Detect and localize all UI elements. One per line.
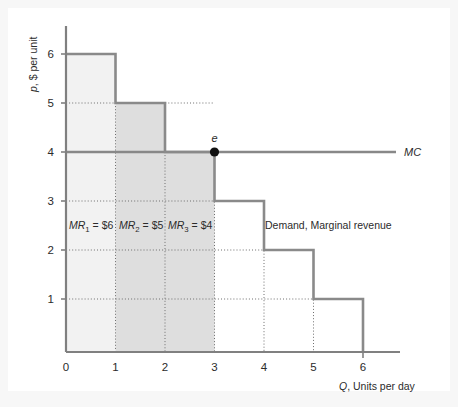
x-tick-label-2: 2 (162, 361, 168, 373)
y-tick-label-4: 4 (48, 146, 55, 158)
mr2-prefix: MR (119, 219, 136, 231)
shaded-bars-group (66, 54, 215, 352)
x-tick-label-6: 6 (360, 361, 366, 373)
figure-page: e MC Demand, Marginal revenue MR1 = $6 M… (0, 0, 458, 407)
x-tick-label-5: 5 (310, 361, 316, 373)
equilibrium-point-marker (210, 147, 219, 156)
x-tick-label-0: 0 (63, 361, 69, 373)
mr1-shaded-bar (66, 54, 116, 352)
x-tick-labels-group: 0 1 2 3 4 5 6 (63, 361, 366, 373)
mr3-prefix: MR (168, 219, 185, 231)
demand-series-label: Demand, Marginal revenue (265, 219, 392, 231)
x-tick-label-4: 4 (261, 361, 268, 373)
equilibrium-point-label: e (211, 132, 217, 144)
y-tick-label-3: 3 (48, 195, 54, 207)
y-tick-label-1: 1 (48, 293, 54, 305)
mr2-value: = $5 (140, 219, 164, 231)
y-tick-label-2: 2 (48, 244, 54, 256)
x-tick-label-3: 3 (211, 361, 217, 373)
y-tick-label-5: 5 (48, 97, 54, 109)
y-axis-title-rest: , $ per unit (27, 36, 39, 86)
mr1-value: = $6 (90, 219, 114, 231)
x-tick-label-1: 1 (112, 361, 118, 373)
mc-series-label: MC (404, 146, 421, 158)
y-tick-label-6: 6 (48, 48, 54, 60)
y-tick-labels-group: 6 5 4 3 2 1 (48, 48, 55, 305)
y-axis-title: p, $ per unit (27, 36, 39, 93)
x-axis-title: Q, Units per day (339, 380, 416, 392)
economics-step-chart: e MC Demand, Marginal revenue MR1 = $6 M… (0, 0, 458, 407)
mr3-value: = $4 (189, 219, 213, 231)
x-axis-title-prefix: Q (339, 380, 347, 392)
mr1-prefix: MR (69, 219, 86, 231)
x-axis-title-rest: , Units per day (347, 380, 415, 392)
mr3-shaded-bar (165, 152, 215, 352)
